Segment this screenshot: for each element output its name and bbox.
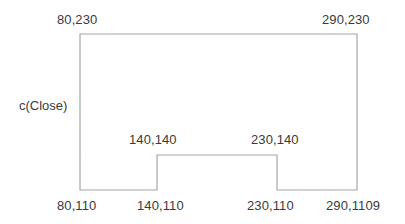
vertex-label-top-left: 80,230 bbox=[57, 13, 97, 27]
y-axis-label: c(Close) bbox=[19, 99, 67, 113]
vertex-label-bottom-notch-left: 140,110 bbox=[137, 199, 184, 213]
vertex-label-notch-right: 230,140 bbox=[251, 133, 299, 147]
vertex-label-bottom-left: 80,110 bbox=[57, 199, 96, 213]
vertex-label-top-right: 290,230 bbox=[322, 13, 370, 27]
vertex-label-bottom-notch-right: 230,110 bbox=[247, 199, 294, 213]
diagram-canvas: 80,230 290,230 140,140 230,140 80,110 14… bbox=[0, 0, 405, 224]
vertex-label-notch-left: 140,140 bbox=[129, 133, 177, 147]
stepped-rectangle-path bbox=[80, 34, 357, 190]
vertex-label-bottom-right: 290,1109 bbox=[326, 199, 380, 213]
